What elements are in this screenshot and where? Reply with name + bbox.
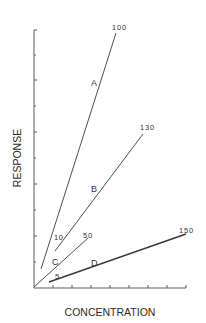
annotation-b-end: 130 — [140, 123, 155, 132]
y-axis-label: RESPONSE — [11, 129, 23, 187]
chart: A B C D 100 130 10 50 150 5 RESPONSE CON… — [0, 0, 206, 323]
x-axis-label: CONCENTRATION — [65, 306, 156, 318]
numeric-annotations: 100 130 10 50 150 5 — [54, 23, 194, 281]
label-d: D — [91, 258, 98, 268]
line-b — [55, 134, 143, 251]
label-b: B — [91, 184, 97, 194]
label-a: A — [91, 78, 97, 88]
label-c: C — [52, 257, 59, 267]
line-d — [49, 234, 186, 282]
annotation-d-start: 5 — [55, 272, 59, 281]
line-c — [34, 238, 88, 287]
series-lines — [34, 33, 186, 287]
line-a — [41, 33, 116, 269]
annotation-c-end: 50 — [83, 231, 93, 240]
annotation-a-end: 100 — [112, 23, 127, 32]
annotation-d-end: 150 — [179, 226, 194, 235]
annotation-b-start: 10 — [54, 233, 63, 242]
